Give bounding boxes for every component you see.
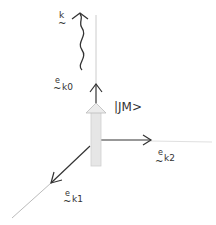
- state-ket-label: |JM>: [114, 101, 142, 113]
- diagram-graphics: [0, 0, 216, 225]
- e-k0-label: e ~ k0: [53, 76, 87, 98]
- e-k0-subscript: k0: [62, 82, 73, 92]
- wave-arrowhead-icon: [72, 13, 88, 19]
- e-k1-label: e ~ k1: [63, 189, 97, 211]
- wave-vector-tilde: ~: [58, 18, 66, 29]
- wave-vector-label: k ~: [57, 10, 71, 32]
- e-k0-tilde: ~: [53, 83, 61, 94]
- k2-axis-line: [150, 141, 212, 142]
- e-k1-subscript: k1: [72, 194, 83, 204]
- e-k2-label: e ~ k2: [155, 148, 189, 170]
- state-arrow-shaft: [91, 112, 101, 166]
- state-arrowhead-icon: [86, 103, 106, 113]
- k1-axis-line: [12, 183, 51, 218]
- e-k1-tilde: ~: [63, 196, 71, 207]
- e-k2-tilde: ~: [155, 156, 163, 167]
- wave-vector-arrow: [80, 14, 84, 70]
- e-k1-arrow: [51, 146, 90, 183]
- vector-diagram: k ~ e ~ k0 |JM> e ~ k2 e ~ k1: [0, 0, 216, 225]
- e-k2-subscript: k2: [164, 153, 175, 163]
